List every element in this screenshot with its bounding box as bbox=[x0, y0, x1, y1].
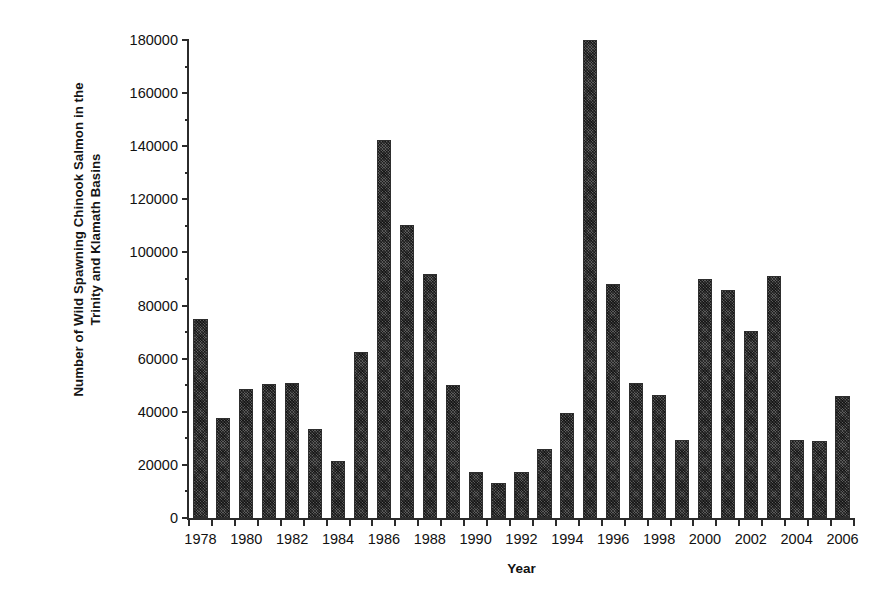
bar bbox=[308, 429, 322, 518]
x-tick bbox=[715, 518, 717, 526]
bar bbox=[400, 225, 414, 518]
y-tick-label: 40000 bbox=[138, 404, 178, 420]
bar bbox=[721, 290, 735, 518]
bar bbox=[514, 472, 528, 518]
y-tick-minor bbox=[185, 225, 189, 227]
bar bbox=[744, 331, 758, 518]
x-tick bbox=[509, 518, 511, 526]
x-tick bbox=[303, 518, 305, 526]
bar bbox=[790, 440, 804, 518]
y-tick-major bbox=[182, 39, 189, 41]
x-tick bbox=[188, 518, 190, 526]
bar bbox=[629, 383, 643, 518]
x-tick bbox=[532, 518, 534, 526]
bar bbox=[812, 441, 826, 518]
x-tick bbox=[807, 518, 809, 526]
x-tick-label: 1990 bbox=[459, 531, 491, 547]
x-tick bbox=[257, 518, 259, 526]
bar bbox=[262, 384, 276, 518]
bar bbox=[698, 279, 712, 518]
x-tick bbox=[784, 518, 786, 526]
x-tick bbox=[853, 518, 855, 526]
bar bbox=[606, 284, 620, 518]
x-tick bbox=[601, 518, 603, 526]
x-tick bbox=[280, 518, 282, 526]
y-tick-label: 160000 bbox=[130, 85, 178, 101]
x-tick-label: 2006 bbox=[826, 531, 858, 547]
y-tick-minor bbox=[185, 331, 189, 333]
y-tick-major bbox=[182, 251, 189, 253]
x-tick bbox=[647, 518, 649, 526]
x-tick-label: 1984 bbox=[322, 531, 354, 547]
y-tick-major bbox=[182, 198, 189, 200]
x-tick bbox=[349, 518, 351, 526]
y-tick-label: 140000 bbox=[130, 138, 178, 154]
bar bbox=[767, 276, 781, 518]
bar bbox=[446, 385, 460, 518]
x-tick bbox=[670, 518, 672, 526]
y-tick-minor bbox=[185, 66, 189, 68]
x-tick-label: 1998 bbox=[643, 531, 675, 547]
bar-chart-figure: Number of Wild Spawning Chinook Salmon i… bbox=[0, 0, 891, 607]
bar bbox=[469, 472, 483, 518]
bar bbox=[285, 383, 299, 518]
bar bbox=[216, 418, 230, 518]
x-tick bbox=[738, 518, 740, 526]
x-tick-label: 2000 bbox=[689, 531, 721, 547]
y-tick-major bbox=[182, 464, 189, 466]
x-tick bbox=[463, 518, 465, 526]
x-tick-label: 2004 bbox=[781, 531, 813, 547]
x-tick-label: 1994 bbox=[551, 531, 583, 547]
y-tick-minor bbox=[185, 490, 189, 492]
x-axis-line bbox=[187, 518, 854, 520]
x-tick bbox=[371, 518, 373, 526]
bar bbox=[560, 413, 574, 518]
y-tick-label: 100000 bbox=[130, 244, 178, 260]
y-tick-minor bbox=[185, 278, 189, 280]
x-tick-label: 1988 bbox=[414, 531, 446, 547]
bar bbox=[583, 40, 597, 518]
y-tick-major bbox=[182, 145, 189, 147]
plot-area: 0200004000060000800001000001200001400001… bbox=[189, 40, 854, 518]
x-tick bbox=[417, 518, 419, 526]
x-tick bbox=[440, 518, 442, 526]
y-tick-major bbox=[182, 411, 189, 413]
bar bbox=[331, 461, 345, 518]
bar bbox=[652, 395, 666, 518]
y-tick-major bbox=[182, 305, 189, 307]
x-tick-label: 2002 bbox=[735, 531, 767, 547]
y-tick-label: 0 bbox=[170, 510, 178, 526]
x-tick bbox=[624, 518, 626, 526]
x-tick bbox=[830, 518, 832, 526]
x-tick-label: 1986 bbox=[368, 531, 400, 547]
x-tick bbox=[555, 518, 557, 526]
bar bbox=[354, 352, 368, 518]
bar bbox=[193, 319, 207, 518]
bar bbox=[423, 274, 437, 518]
x-tick bbox=[326, 518, 328, 526]
x-axis-title: Year bbox=[189, 561, 854, 576]
y-tick-major bbox=[182, 358, 189, 360]
bar bbox=[675, 440, 689, 518]
x-tick bbox=[578, 518, 580, 526]
x-tick bbox=[761, 518, 763, 526]
y-tick-minor bbox=[185, 119, 189, 121]
bar bbox=[377, 140, 391, 518]
y-tick-label: 120000 bbox=[130, 191, 178, 207]
x-tick bbox=[486, 518, 488, 526]
y-tick-label: 20000 bbox=[138, 457, 178, 473]
y-axis-title: Number of Wild Spawning Chinook Salmon i… bbox=[70, 24, 105, 454]
x-tick-label: 1978 bbox=[184, 531, 216, 547]
bar bbox=[239, 389, 253, 518]
y-tick-minor bbox=[185, 172, 189, 174]
x-tick bbox=[394, 518, 396, 526]
x-tick-label: 1982 bbox=[276, 531, 308, 547]
x-tick-label: 1992 bbox=[505, 531, 537, 547]
y-tick-label: 180000 bbox=[130, 32, 178, 48]
bar bbox=[537, 449, 551, 518]
y-axis-title-wrapper: Number of Wild Spawning Chinook Salmon i… bbox=[0, 0, 160, 540]
y-tick-minor bbox=[185, 437, 189, 439]
y-tick-label: 80000 bbox=[138, 298, 178, 314]
x-tick bbox=[211, 518, 213, 526]
x-tick-label: 1980 bbox=[230, 531, 262, 547]
